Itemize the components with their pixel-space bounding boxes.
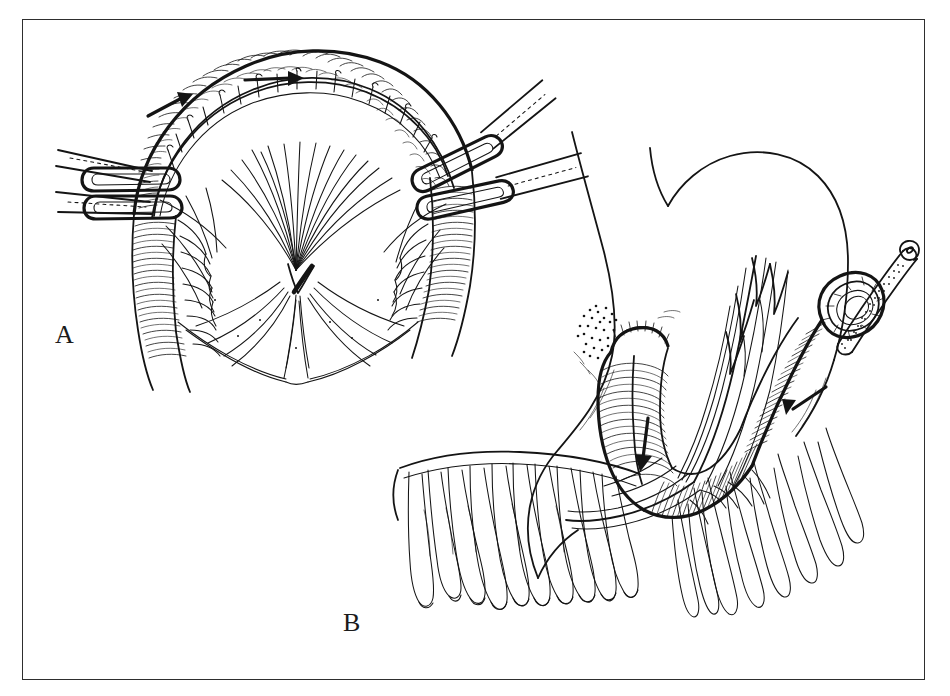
mesenteric-stump-left	[178, 220, 220, 356]
greater-omentum-fringes-left	[408, 463, 638, 610]
conduit-distal-limb	[740, 272, 884, 466]
conduit-proximal-limb	[598, 321, 677, 510]
surgical-illustration	[0, 0, 950, 696]
panel-label-a: A	[55, 322, 74, 348]
clamp-right-lower	[413, 153, 590, 221]
figure-root: A B	[0, 0, 950, 696]
mesenteric-vessels-left	[160, 188, 226, 308]
panel-a-illustration	[56, 50, 590, 392]
peristalsis-arrow-left	[148, 92, 193, 116]
panel-label-b: B	[343, 610, 361, 636]
mesentery-lower-leaves	[178, 282, 418, 384]
clamp-left-lower	[56, 192, 182, 219]
bowel-limb-left	[132, 214, 190, 392]
greater-omentum-fringes-right	[672, 428, 864, 617]
mesenteric-vessel-fan	[222, 142, 400, 293]
conduit-arrow-distal	[782, 387, 826, 415]
panel-b-illustration	[394, 132, 920, 617]
clamp-right-upper	[397, 78, 568, 195]
